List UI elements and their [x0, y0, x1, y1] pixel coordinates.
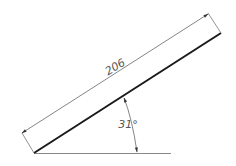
inclined-member-line [34, 33, 221, 153]
length-dimension-label: 206 [103, 56, 128, 78]
angle-dimension-label: 31° [118, 118, 138, 131]
technical-drawing: 206 31° [0, 0, 236, 166]
extension-line-start [22, 133, 34, 153]
extension-line-end [208, 13, 221, 33]
